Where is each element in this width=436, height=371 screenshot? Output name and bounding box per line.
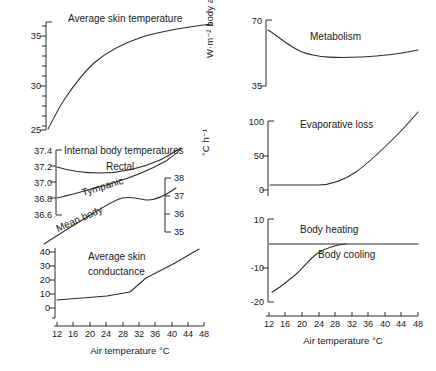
svg-text:16: 16: [280, 319, 290, 329]
curve-label-rectal: Rectal: [106, 161, 134, 172]
y-axis-label: W·m⁻² body area: [204, 0, 215, 58]
svg-text:44: 44: [396, 319, 406, 329]
svg-text:40: 40: [380, 319, 390, 329]
svg-text:36: 36: [363, 319, 373, 329]
y-tick-labels: 35 30 25: [31, 31, 41, 135]
thermoregulation-figure: °C 35 30 25 Averag: [0, 0, 436, 371]
svg-text:48: 48: [199, 329, 209, 339]
label-body-cooling: Body cooling: [318, 249, 375, 260]
svg-text:12: 12: [52, 329, 62, 339]
curve-label-skin-conductance-line1: Average skin: [88, 251, 146, 262]
evaporative-loss-plot: W·m⁻² body area 100 50 0 Evaporative los…: [222, 108, 436, 208]
y-tick-label-top: 70: [252, 16, 262, 26]
panel-evaporative-loss: W·m⁻² body area 100 50 0 Evaporative los…: [222, 108, 436, 208]
svg-text:35: 35: [31, 31, 41, 41]
svg-text:36: 36: [150, 329, 160, 339]
panel-skin-conductance: Wm⁻² °C⁻¹ 40 30 20 10 0 Average skin con…: [0, 238, 225, 371]
y-tick-label-100: 100: [249, 117, 264, 127]
svg-text:48: 48: [413, 319, 423, 329]
svg-text:37.0: 37.0: [34, 178, 52, 188]
panel-metabolism: Wm⁻² body area 70 35 Metabolism: [222, 8, 436, 108]
svg-text:37.2: 37.2: [34, 162, 52, 172]
x-axis: 12 16 20 24 28 32 36 40 44 48 Air temper…: [52, 322, 209, 356]
curve-label-metabolism: Metabolism: [310, 31, 361, 42]
x-ticks: [269, 312, 418, 316]
svg-text:32: 32: [134, 329, 144, 339]
panel-internal-temperature: °C 37.4 37.2 37.0 36.8 36.6 Internal bod…: [0, 140, 225, 238]
x-tick-labels: 12 16 20 24 28 32 36 40 44 48: [52, 329, 209, 339]
x-axis-label: Air temperature °C: [303, 335, 383, 346]
curve-label-skin-conductance-line2: conductance: [88, 266, 145, 277]
svg-text:40: 40: [167, 329, 177, 339]
metabolism-plot: Wm⁻² body area 70 35 Metabolism: [222, 8, 436, 108]
svg-text:37: 37: [174, 191, 184, 201]
svg-text:44: 44: [183, 329, 193, 339]
svg-text:30: 30: [40, 261, 50, 271]
svg-text:20: 20: [297, 319, 307, 329]
svg-text:24: 24: [314, 319, 324, 329]
svg-text:24: 24: [101, 329, 111, 339]
curve-label-skin-temperature: Average skin temperature: [68, 13, 183, 24]
svg-text:35: 35: [174, 227, 184, 237]
secondary-y-axis: 38 37 36 35: [165, 173, 184, 237]
panel-title-internal-temperature: Internal body temperatures: [64, 145, 184, 156]
svg-text:25: 25: [31, 125, 41, 135]
skin-conductance-plot: Wm⁻² °C⁻¹ 40 30 20 10 0 Average skin con…: [0, 238, 225, 371]
curve-tympanic: [57, 149, 181, 198]
svg-text:32: 32: [347, 319, 357, 329]
panel-body-heat-storage: °C h⁻¹ 10 -10 -20 Body heating Body cool…: [222, 208, 436, 371]
svg-text:40: 40: [40, 247, 50, 257]
y-tick-label-10: 10: [254, 215, 264, 225]
svg-text:20: 20: [40, 275, 50, 285]
y-tick-labels: 37.4 37.2 37.0 36.8 36.6: [34, 146, 52, 220]
y-tick-labels: 40 30 20 10 0: [40, 247, 50, 313]
skin-temperature-plot: °C 35 30 25 Averag: [0, 8, 225, 138]
svg-text:28: 28: [118, 329, 128, 339]
curve-label-mean-body: Mean body: [54, 204, 104, 234]
internal-temperature-plot: °C 37.4 37.2 37.0 36.8 36.6 Internal bod…: [0, 140, 225, 238]
y-axis-label: °C h⁻¹: [200, 129, 211, 156]
svg-text:38: 38: [174, 173, 184, 183]
x-axis: 12 16 20 24 28 32 36 40 44 48 Air temper…: [264, 312, 423, 346]
x-ticks: [57, 322, 204, 326]
label-body-heating: Body heating: [300, 224, 358, 235]
y-tick-label-minus20: -20: [251, 297, 264, 307]
svg-text:28: 28: [330, 319, 340, 329]
svg-text:10: 10: [40, 289, 50, 299]
svg-text:37.4: 37.4: [34, 146, 52, 156]
svg-text:36: 36: [174, 209, 184, 219]
svg-text:30: 30: [31, 81, 41, 91]
svg-text:12: 12: [264, 319, 274, 329]
curve-skin-temperature: [48, 24, 212, 129]
x-tick-labels: 12 16 20 24 28 32 36 40 44 48: [264, 319, 423, 329]
curve-label-tympanic: Tympanic: [80, 175, 124, 198]
x-axis-label: Air temperature °C: [90, 345, 170, 356]
panel-skin-temperature: °C 35 30 25 Averag: [0, 8, 225, 138]
body-heat-storage-plot: °C h⁻¹ 10 -10 -20 Body heating Body cool…: [222, 208, 436, 371]
svg-text:20: 20: [85, 329, 95, 339]
curve-label-evaporative-loss: Evaporative loss: [300, 119, 373, 130]
svg-text:36.6: 36.6: [34, 210, 52, 220]
svg-text:36.8: 36.8: [34, 194, 52, 204]
svg-text:16: 16: [68, 329, 78, 339]
